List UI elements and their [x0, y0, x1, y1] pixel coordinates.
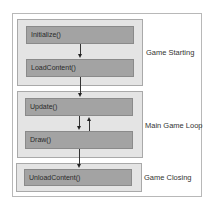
label-game-starting: Game Starting — [146, 48, 194, 57]
arrowhead-down-icon — [78, 93, 82, 97]
arrowhead-down-icon — [77, 164, 81, 168]
step-draw: Draw() — [25, 131, 133, 149]
arrowhead-up-icon — [87, 117, 91, 121]
step-update: Update() — [25, 98, 133, 116]
label-game-closing: Game Closing — [144, 173, 192, 182]
arrowhead-down-icon — [77, 126, 81, 130]
step-unload-content: UnloadContent() — [24, 169, 132, 186]
arrow-draw-to-update — [89, 121, 90, 131]
arrowhead-down-icon — [78, 54, 82, 58]
step-initialize: Initialize() — [26, 26, 134, 44]
step-load-content: LoadContent() — [26, 59, 134, 77]
label-main-game-loop: Main Game Loop — [145, 121, 203, 130]
